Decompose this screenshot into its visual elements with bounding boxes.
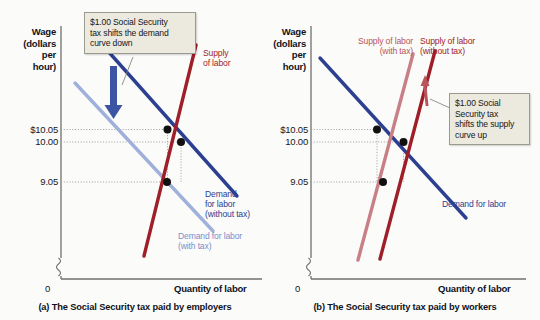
curve-demand-with-tax: [75, 83, 213, 231]
panel-a-x-axis-title: Quantity of labor: [174, 283, 247, 294]
label-supply-with-tax-line-2: (with tax): [318, 46, 413, 56]
curve-supply-of-labor: [144, 45, 196, 256]
y-axis-title-line-2: (dollars: [6, 38, 56, 50]
y-axis-title-line-3: per: [6, 49, 56, 61]
label-demand-without-tax: Demand for labor (without tax): [205, 189, 250, 220]
panel-a-y-axis-title: Wage (dollars per hour): [6, 26, 56, 72]
label-demand-with-tax: Demand for labor (with tax): [178, 231, 242, 251]
label-supply-without-tax: Supply of labor (without tax): [420, 36, 475, 56]
curve-demand-for-labor: [320, 58, 466, 218]
panel-a-callout: $1.00 Social Security tax shifts the dem…: [84, 12, 196, 54]
label-supply-with-tax-line-1: Supply of labor: [318, 36, 413, 46]
label-demand-without-tax-line-3: (without tax): [205, 209, 250, 219]
panel-b-origin-label: 0: [295, 283, 300, 294]
panel-b-callout-leader: [430, 99, 450, 108]
panel-a-callout-line-2: tax shifts the demand: [90, 28, 190, 39]
panel-b-callout-line-2: Security tax: [455, 109, 524, 120]
curve-supply-with-tax: [358, 54, 413, 260]
y-axis-title-line-1: Wage: [258, 26, 306, 38]
panel-a-origin-label: 0: [45, 283, 50, 294]
panel-b-callout-line-3: shifts the supply: [455, 119, 524, 130]
label-demand-without-tax-line-2: for labor: [205, 199, 250, 209]
panel-b-callout-line-1: $1.00 Social: [455, 98, 524, 109]
curve-demand-without-tax: [107, 50, 237, 196]
panel-a-y-tick-1005: $10.05: [6, 124, 58, 135]
panel-b-callout-line-4: curve up: [455, 130, 524, 141]
panel-b-y-axis-title: Wage (dollars per hour): [258, 26, 306, 72]
label-supply-of-labor-line-1: Supply: [203, 48, 230, 58]
y-axis-title-line-3: per: [258, 49, 306, 61]
panel-b-caption: (b) The Social Security tax paid by work…: [270, 302, 540, 312]
panel-a-callout-line-1: $1.00 Social Security: [90, 17, 190, 28]
label-demand-with-tax-line-1: Demand for labor: [178, 231, 242, 241]
panel-a-employers: Wage (dollars per hour) $10.05 10.00 9.0…: [0, 0, 270, 320]
panel-b-axes: [307, 26, 527, 279]
label-demand-for-labor: Demand for labor: [442, 199, 506, 209]
panel-b-y-tick-905: 9.05: [256, 176, 308, 187]
social-security-tax-figure: Wage (dollars per hour) $10.05 10.00 9.0…: [0, 0, 540, 320]
demand-shift-down-arrow: [105, 66, 123, 119]
panel-a-y-tick-1000: 10.00: [6, 136, 58, 147]
label-supply-without-tax-line-2: (without tax): [420, 46, 475, 56]
label-supply-of-labor: Supply of labor: [203, 48, 230, 68]
label-supply-with-tax: Supply of labor (with tax): [318, 36, 413, 56]
label-supply-without-tax-line-1: Supply of labor: [420, 36, 475, 46]
panel-b-workers: Wage (dollars per hour) $10.05 10.00 9.0…: [270, 0, 540, 320]
y-axis-title-line-2: (dollars: [258, 38, 306, 50]
panel-b-y-tick-1000: 10.00: [256, 136, 308, 147]
label-demand-for-labor-line-1: Demand for labor: [442, 199, 506, 209]
y-axis-title-line-4: hour): [258, 61, 306, 73]
label-demand-with-tax-line-2: (with tax): [178, 241, 242, 251]
label-supply-of-labor-line-2: of labor: [203, 58, 230, 68]
panel-a-caption: (a) The Social Security tax paid by empl…: [0, 302, 270, 312]
label-demand-without-tax-line-1: Demand: [205, 189, 250, 199]
y-axis-title-line-4: hour): [6, 61, 56, 73]
panel-a-y-tick-905: 9.05: [6, 176, 58, 187]
panel-b-callout: $1.00 Social Security tax shifts the sup…: [449, 93, 530, 145]
y-axis-title-line-1: Wage: [6, 26, 56, 38]
panel-b-y-tick-1005: $10.05: [256, 124, 308, 135]
panel-b-x-axis-title: Quantity of labor: [438, 283, 511, 294]
panel-a-callout-line-3: curve down: [90, 38, 190, 49]
